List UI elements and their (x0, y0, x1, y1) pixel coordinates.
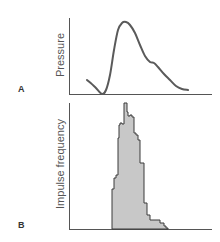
y-axis-label-pressure: Pressure (54, 27, 66, 83)
chart-canvas (0, 0, 220, 242)
pressure-curve (87, 22, 188, 94)
panel-label-b: B (18, 220, 25, 230)
figure: A B Pressure Impulse frequency (0, 0, 220, 242)
panel-label-a: A (18, 84, 25, 94)
y-axis-label-impulse-frequency: Impulse frequency (54, 115, 66, 213)
impulse-histogram (112, 103, 168, 229)
